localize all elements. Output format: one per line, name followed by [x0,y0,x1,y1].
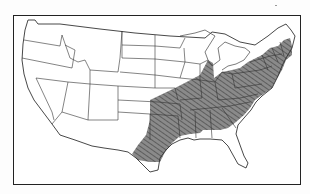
map-figure [0,0,310,194]
us-map [0,0,310,194]
great-lakes [180,30,250,70]
